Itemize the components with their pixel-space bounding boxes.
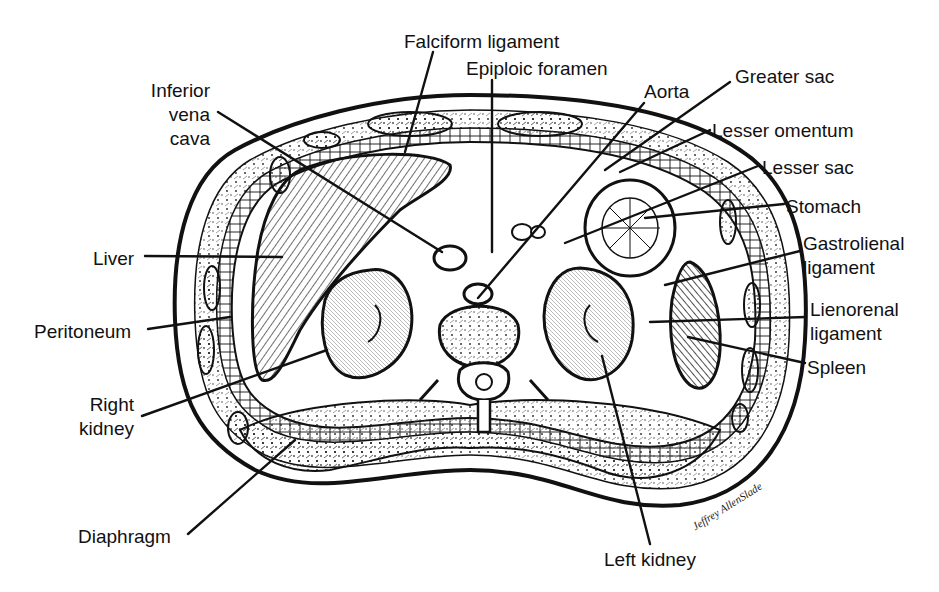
label-peritoneum: Peritoneum bbox=[34, 320, 131, 343]
label-inferior-vena-cava: vena bbox=[140, 103, 210, 126]
label-lienorenal-ligament: Lienorenal bbox=[810, 298, 899, 321]
label-stomach: Stomach bbox=[786, 195, 861, 218]
label-lesser-omentum: Lesser omentum bbox=[712, 119, 854, 142]
label-spleen: Spleen bbox=[807, 356, 866, 379]
label-lesser-sac: Lesser sac bbox=[762, 156, 854, 179]
liver-leader bbox=[145, 256, 282, 257]
label-right-kidney: kidney bbox=[70, 417, 134, 440]
label-gastrolienal-ligament: Gastrolienal bbox=[803, 232, 904, 255]
label-diaphragm: Diaphragm bbox=[78, 525, 171, 548]
label-greater-sac: Greater sac bbox=[735, 65, 834, 88]
label-left-kidney: Left kidney bbox=[604, 548, 696, 571]
label-aorta: Aorta bbox=[644, 80, 689, 103]
label-inferior-vena-cava: cava bbox=[140, 127, 210, 150]
label-gastrolienal-ligament: ligament bbox=[803, 256, 875, 279]
label-epiploic-foramen: Epiploic foramen bbox=[466, 57, 608, 80]
label-liver: Liver bbox=[93, 247, 134, 270]
label-right-kidney: Right bbox=[70, 393, 134, 416]
label-falciform-ligament: Falciform ligament bbox=[404, 30, 559, 53]
stomach bbox=[585, 180, 675, 276]
label-lienorenal-ligament: ligament bbox=[810, 322, 882, 345]
anatomy-diagram: Falciform ligament Epiploic foramen Infe… bbox=[0, 0, 939, 592]
label-inferior-vena-cava: Inferior bbox=[140, 79, 210, 102]
